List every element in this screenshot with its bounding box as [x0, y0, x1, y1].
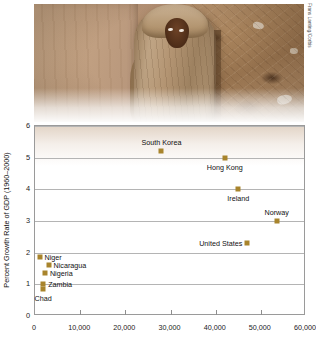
photo-bottom-fade: [34, 88, 304, 122]
data-point-marker: [37, 255, 42, 260]
y-axis-tick-label: 4: [26, 184, 30, 193]
data-point-label: South Korea: [141, 138, 181, 147]
x-axis-tick-label: 40,000: [204, 323, 226, 332]
y-axis-tick-label: 6: [26, 121, 30, 130]
x-axis-labels: 010,00020,00030,00040,00050,00060,000: [34, 316, 305, 330]
x-axis-tick: [125, 310, 126, 315]
scatter-chart: South KoreaHong KongIrelandNorwayUnited …: [34, 125, 305, 315]
data-point-marker: [41, 287, 46, 292]
gridline: [35, 158, 304, 159]
y-axis-tick-label: 2: [26, 247, 30, 256]
gridline: [35, 284, 304, 285]
data-point-label: Ireland: [227, 194, 249, 203]
data-point-label: United States: [199, 239, 242, 248]
data-point-marker: [159, 149, 164, 154]
gridline: [35, 189, 304, 190]
gridline: [35, 126, 304, 127]
figure-container: Frans Lanting/Corbis South KoreaHong Kon…: [0, 0, 316, 349]
x-axis-tick-label: 10,000: [68, 323, 90, 332]
x-axis-tick: [80, 310, 81, 315]
data-point-marker: [46, 263, 51, 268]
x-axis-tick: [216, 310, 217, 315]
x-axis-tick-label: 20,000: [113, 323, 135, 332]
data-point-label: Hong Kong: [207, 162, 243, 171]
data-point-marker: [274, 219, 279, 224]
photo-credit-text: Frans Lanting/Corbis: [306, 3, 311, 48]
x-axis-tick: [261, 310, 262, 315]
x-axis-tick-label: 60,000: [294, 323, 316, 332]
gridline: [35, 253, 304, 254]
photo-image: [34, 4, 304, 122]
x-axis-tick-label: 30,000: [159, 323, 181, 332]
data-point-label: Norway: [264, 208, 288, 217]
photograph: [34, 4, 304, 122]
y-axis-tick-label: 5: [26, 152, 30, 161]
y-axis-tick-label: 0: [26, 311, 30, 320]
data-point-marker: [236, 187, 241, 192]
x-axis-tick-label: 0: [32, 323, 36, 332]
x-axis-tick: [171, 310, 172, 315]
x-axis-tick-label: 50,000: [249, 323, 271, 332]
photo-credit: Frans Lanting/Corbis: [303, 3, 314, 95]
data-point-marker: [222, 155, 227, 160]
y-axis-tick-label: 3: [26, 216, 30, 225]
y-axis-title: Percent Growth Rate of GDP (1960–2000): [2, 152, 11, 287]
data-point-label: Nigeria: [50, 269, 73, 278]
data-point-marker: [42, 271, 47, 276]
gridline: [35, 221, 304, 222]
data-point-label: Chad: [35, 294, 52, 303]
y-axis-tick-label: 1: [26, 279, 30, 288]
data-point-label: Zambia: [48, 280, 72, 289]
data-point-marker: [245, 241, 250, 246]
plot-area: South KoreaHong KongIrelandNorwayUnited …: [34, 125, 305, 315]
